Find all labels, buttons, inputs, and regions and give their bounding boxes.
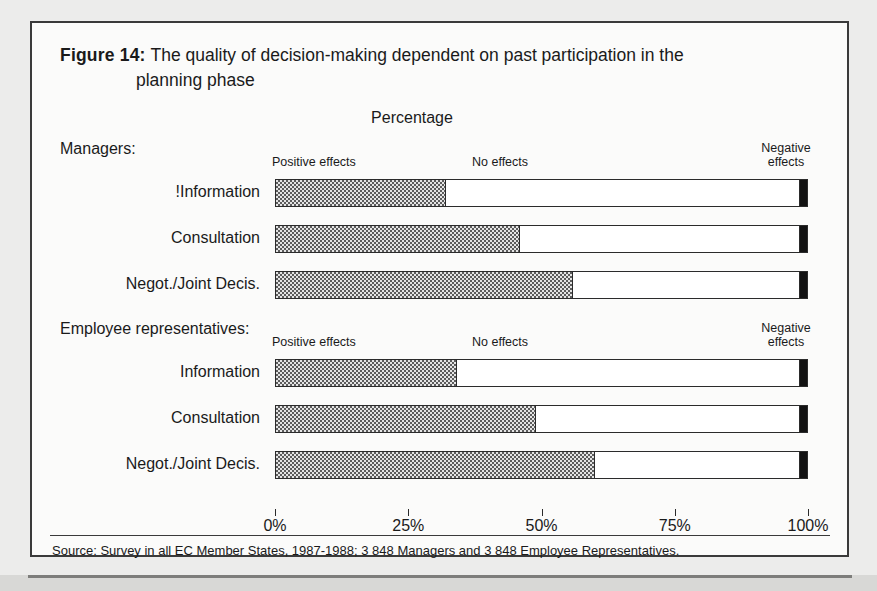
bar-segment-negative — [799, 406, 807, 432]
axis-tick-label-75: 75% — [659, 517, 691, 535]
segment-legend-employee-representatives: Positive effects No effects Negativeeffe… — [32, 319, 847, 353]
bar-segment-positive — [276, 452, 595, 478]
legend-positive-effects: Positive effects — [272, 335, 356, 349]
axis-title-percentage: Percentage — [32, 109, 792, 127]
row-label-employee-information: Information — [32, 363, 260, 381]
legend-negative-effects-line1: Negative — [761, 321, 810, 335]
bar-segment-negative — [799, 180, 807, 206]
bar-segment-neutral — [595, 452, 799, 478]
bar-employee-negotiation — [275, 451, 808, 479]
source-note: Source: Survey in all EC Member States, … — [52, 543, 679, 558]
table-row: Negot./Joint Decis. — [32, 451, 847, 483]
bar-segment-neutral — [573, 272, 799, 298]
page-bottom-rule — [28, 575, 852, 578]
bar-segment-negative — [799, 272, 807, 298]
legend-no-effects: No effects — [472, 155, 528, 169]
legend-positive-effects: Positive effects — [272, 155, 356, 169]
bar-segment-positive — [276, 406, 536, 432]
segment-legend-managers: Positive effects No effects Negativeeffe… — [32, 139, 847, 173]
bar-managers-information — [275, 179, 808, 207]
axis-tick-mark — [675, 509, 676, 516]
bar-employee-consultation — [275, 405, 808, 433]
legend-negative-effects: Negativeeffects — [744, 321, 828, 349]
axis-tick-label-50: 50% — [525, 517, 557, 535]
bar-segment-positive — [276, 180, 446, 206]
bar-segment-neutral — [446, 180, 799, 206]
legend-negative-effects: Negativeeffects — [744, 141, 828, 169]
axis-tick-label-100: 100% — [788, 517, 829, 535]
source-divider — [50, 535, 830, 536]
legend-negative-effects-line2: effects — [768, 155, 805, 169]
bar-segment-neutral — [457, 360, 800, 386]
legend-negative-effects-line1: Negative — [761, 141, 810, 155]
bar-segment-positive — [276, 226, 520, 252]
axis-tick-mark — [808, 509, 809, 516]
row-label-managers-information: !Information — [32, 183, 260, 201]
row-label-managers-consultation: Consultation — [32, 229, 260, 247]
bar-segment-neutral — [520, 226, 799, 252]
row-label-employee-consultation: Consultation — [32, 409, 260, 427]
page-background: Figure 14: The quality of decision-makin… — [0, 0, 877, 591]
row-label-managers-negotiation: Negot./Joint Decis. — [32, 275, 260, 293]
bar-managers-negotiation — [275, 271, 808, 299]
row-label-employee-negotiation: Negot./Joint Decis. — [32, 455, 260, 473]
table-row: !Information — [32, 179, 847, 211]
axis-tick-label-0: 0% — [263, 517, 286, 535]
table-row: Negot./Joint Decis. — [32, 271, 847, 303]
axis-tick-mark — [275, 509, 276, 516]
table-row: Consultation — [32, 225, 847, 257]
bar-segment-negative — [799, 360, 807, 386]
legend-no-effects: No effects — [472, 335, 528, 349]
bar-segment-negative — [799, 452, 807, 478]
table-row: Consultation — [32, 405, 847, 437]
bar-managers-consultation — [275, 225, 808, 253]
table-row: Information — [32, 359, 847, 391]
bar-segment-positive — [276, 272, 573, 298]
axis-tick-mark — [408, 509, 409, 516]
bar-segment-neutral — [536, 406, 799, 432]
axis-tick-label-25: 25% — [392, 517, 424, 535]
bar-segment-negative — [799, 226, 807, 252]
bar-employee-information — [275, 359, 808, 387]
legend-negative-effects-line2: effects — [768, 335, 805, 349]
bar-segment-positive — [276, 360, 457, 386]
figure-frame: Figure 14: The quality of decision-makin… — [30, 21, 849, 557]
axis-tick-mark — [542, 509, 543, 516]
chart-area: Percentage Managers: Positive effects No… — [32, 23, 847, 555]
